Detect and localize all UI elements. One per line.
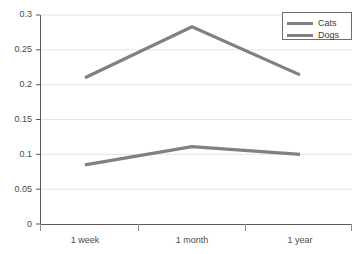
- legend-label-dogs: Dogs: [318, 31, 339, 40]
- line-chart: 0.3 0.25 0.2 0.15 0.1 0.05 0 1 week 1 mo…: [0, 0, 358, 254]
- legend-swatch-dogs-icon: [287, 34, 313, 37]
- y-axis-label-0.05: 0.05: [2, 185, 32, 194]
- y-axis-label-0.25: 0.25: [2, 45, 32, 54]
- legend-item-dogs[interactable]: Dogs: [287, 29, 339, 41]
- y-axis-label-0.2: 0.2: [2, 80, 32, 89]
- series-line-dogs: [85, 147, 300, 165]
- x-axis-ticks: [41, 224, 352, 231]
- y-axis-label-0.1: 0.1: [2, 150, 32, 159]
- legend-label-cats: Cats: [318, 19, 337, 28]
- x-axis-label-1-week: 1 week: [55, 236, 115, 245]
- legend: Cats Dogs: [282, 12, 352, 40]
- y-axis-ticks: [36, 15, 40, 224]
- x-axis-label-1-year: 1 year: [270, 236, 330, 245]
- y-axis-label-0.15: 0.15: [2, 115, 32, 124]
- y-axis-label-0: 0: [2, 220, 32, 229]
- legend-swatch-cats-icon: [287, 22, 313, 25]
- x-axis-label-1-month: 1 month: [162, 236, 222, 245]
- series-line-cats: [85, 27, 300, 78]
- y-axis-label-0.3: 0.3: [2, 10, 32, 19]
- legend-item-cats[interactable]: Cats: [287, 17, 337, 29]
